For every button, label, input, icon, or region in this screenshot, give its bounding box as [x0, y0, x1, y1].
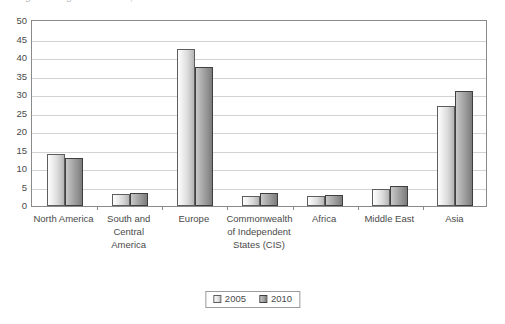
y-tick-label: 5 [22, 183, 27, 193]
chart-legend: 20052010 [205, 291, 300, 308]
chart-title-text: Figure: Regional shares, 2005 and 2010 [16, 0, 207, 2]
bar-group [32, 21, 97, 206]
bar-2005 [177, 49, 195, 206]
x-tick-label: North America [31, 212, 96, 225]
legend-swatch-icon [259, 295, 267, 303]
legend-label: 2010 [271, 294, 292, 304]
y-tick-label: 35 [16, 72, 27, 82]
x-axis-tick [97, 206, 98, 210]
y-tick-label: 40 [16, 53, 27, 63]
bar-2005 [437, 106, 455, 206]
x-tick-label: Asia [422, 212, 487, 225]
chart-title-cropped: Figure: Regional shares, 2005 and 2010 [0, 0, 505, 13]
x-tick-label: Middle East [357, 212, 422, 225]
y-tick-label: 50 [16, 16, 27, 26]
bar-2010 [325, 195, 343, 206]
bar-group [358, 21, 423, 206]
y-tick-label: 25 [16, 109, 27, 119]
bar-2010 [260, 193, 278, 206]
bar-group [423, 21, 488, 206]
bar-2010 [455, 91, 473, 206]
bar-2005 [307, 196, 325, 206]
x-axis-tick [162, 206, 163, 210]
x-tick-label: South and Central America [96, 212, 161, 251]
legend-item-2010[interactable]: 2010 [259, 294, 292, 304]
x-axis-tick [423, 206, 424, 210]
bar-2005 [47, 154, 65, 206]
bar-group [97, 21, 162, 206]
bar-group [227, 21, 292, 206]
bar-2005 [372, 189, 390, 206]
bar-2010 [130, 193, 148, 206]
x-axis-tick [358, 206, 359, 210]
x-axis-labels: North AmericaSouth and Central AmericaEu… [31, 212, 487, 272]
legend-label: 2005 [225, 294, 246, 304]
plot-area [31, 20, 487, 207]
y-tick-label: 20 [16, 127, 27, 137]
y-tick-label: 30 [16, 90, 27, 100]
legend-item-2005[interactable]: 2005 [213, 294, 246, 304]
bar-2010 [65, 158, 83, 206]
x-tick-label: Africa [292, 212, 357, 225]
y-tick-label: 45 [16, 35, 27, 45]
bar-group [162, 21, 227, 206]
bar-2005 [112, 194, 130, 206]
y-tick-label: 15 [16, 146, 27, 156]
legend-swatch-icon [213, 295, 221, 303]
x-axis-tick [227, 206, 228, 210]
bar-2010 [390, 186, 408, 206]
x-axis-tick [293, 206, 294, 210]
y-tick-label: 0 [22, 201, 27, 211]
bar-group [293, 21, 358, 206]
x-tick-label: Commonwealth of Independent States (CIS) [226, 212, 291, 251]
x-tick-label: Europe [161, 212, 226, 225]
y-tick-label: 10 [16, 164, 27, 174]
plot-inner [32, 21, 486, 206]
y-axis-labels: 50454035302520151050 [0, 20, 27, 207]
bar-2005 [242, 196, 260, 206]
bar-2010 [195, 67, 213, 206]
bar-chart: Figure: Regional shares, 2005 and 2010 5… [0, 0, 505, 324]
